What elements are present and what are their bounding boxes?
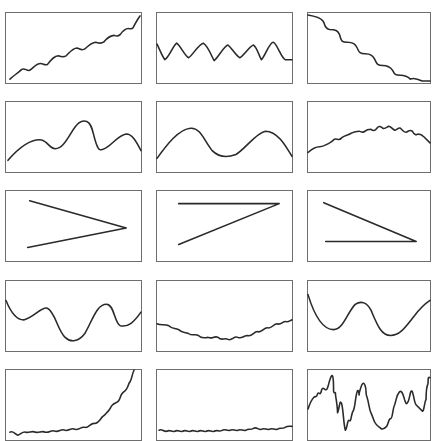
line-plot-icon [6,370,141,440]
panel-wedge [307,190,431,262]
panel-wiggly-arch [307,101,431,173]
panel-shallow-u-wiggle [156,280,293,352]
line-plot-icon [308,370,430,440]
panel-oscillation [156,12,293,84]
panel-exponential-rise [5,369,142,441]
line-plot-icon [6,191,141,261]
line-plot-icon [6,281,141,351]
panel-decreasing-staircase [307,12,431,84]
panel-double-valley [307,280,431,352]
panel-flat-noise [156,369,293,441]
line-plot-icon [157,191,292,261]
panel-angle-left [5,190,142,262]
line-plot-icon [308,191,430,261]
panel-two-humps [156,101,293,173]
line-plot-icon [6,102,141,172]
panel-wave-deep-trough [5,280,142,352]
line-plot-icon [308,102,430,172]
panel-multi-hump [5,101,142,173]
line-plot-icon [157,13,292,83]
line-plot-icon [6,13,141,83]
line-plot-icon [308,13,430,83]
line-plot-icon [157,281,292,351]
panel-volatile-signal [307,369,431,441]
panel-z-angle [156,190,293,262]
panel-increasing-wiggle [5,12,142,84]
line-plot-icon [157,102,292,172]
line-plot-icon [308,281,430,351]
line-plot-icon [157,370,292,440]
